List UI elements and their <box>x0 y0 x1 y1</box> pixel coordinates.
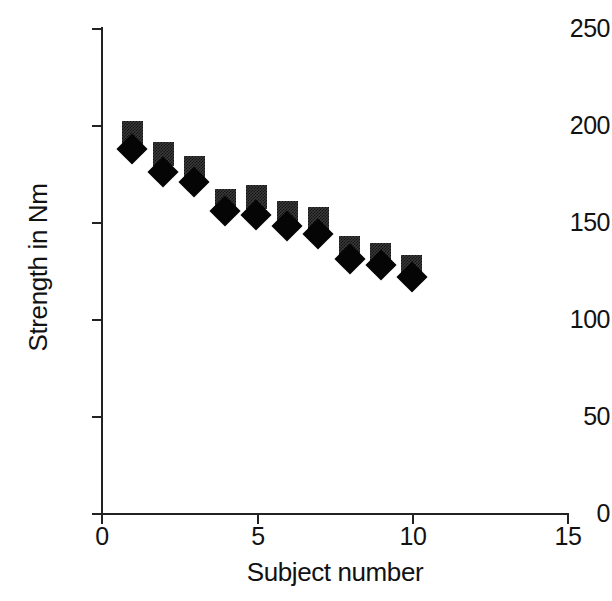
data-point-diamond <box>272 211 303 242</box>
data-point-square <box>401 255 422 279</box>
data-point-square <box>215 189 236 213</box>
data-point-diamond <box>303 219 334 250</box>
y-axis-title: Strength in Nm <box>23 88 54 448</box>
data-point-diamond <box>334 244 365 275</box>
x-axis-title: Subject number <box>120 557 550 588</box>
data-point-square <box>308 207 329 231</box>
y-tick-label-100: 100 <box>522 307 612 332</box>
x-axis-line <box>101 513 569 515</box>
data-point-diamond <box>148 156 179 187</box>
x-tick-label-5: 5 <box>228 524 288 549</box>
y-tick-label-200: 200 <box>522 113 612 138</box>
y-axis-line <box>101 27 103 515</box>
x-tick-label-0: 0 <box>72 524 132 549</box>
y-tick-label-50: 50 <box>522 404 612 429</box>
data-point-square <box>184 156 205 180</box>
y-tick-0 <box>92 513 101 515</box>
data-point-square <box>246 185 267 209</box>
data-point-diamond <box>396 261 427 292</box>
y-tick-label-250: 250 <box>522 16 612 41</box>
data-point-square <box>370 243 391 267</box>
x-tick-label-10: 10 <box>383 524 443 549</box>
data-point-diamond <box>365 250 396 281</box>
y-tick-250 <box>92 28 101 30</box>
data-point-diamond <box>241 199 272 230</box>
data-point-diamond <box>210 195 241 226</box>
data-point-diamond <box>179 166 210 197</box>
data-point-square <box>339 236 360 260</box>
plot-area <box>0 0 612 601</box>
data-point-square <box>277 201 298 225</box>
scatter-plot-figure: 0 50 100 150 200 250 0 5 10 15 Strength … <box>0 0 612 601</box>
x-tick-label-15: 15 <box>538 524 598 549</box>
y-tick-200 <box>92 125 101 127</box>
y-tick-100 <box>92 319 101 321</box>
data-point-diamond <box>117 133 148 164</box>
data-point-square <box>153 142 174 166</box>
y-tick-150 <box>92 222 101 224</box>
y-tick-50 <box>92 416 101 418</box>
y-tick-label-150: 150 <box>522 210 612 235</box>
data-point-square <box>122 121 143 145</box>
